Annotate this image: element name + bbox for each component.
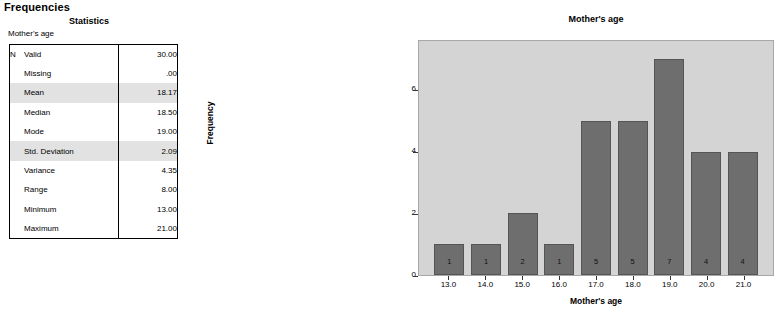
stat-n-cell: [10, 64, 25, 83]
x-tick-label: 16.0: [541, 280, 577, 289]
x-tick-mark: [670, 276, 671, 280]
histogram-bar[interactable]: 5: [618, 121, 648, 275]
histogram-bar[interactable]: 1: [434, 244, 464, 275]
plot-area: 112155744: [418, 40, 774, 276]
x-tick-mark: [744, 276, 745, 280]
page-title: Frequencies: [4, 1, 70, 13]
stat-label-cell: Std. Deviation: [24, 141, 119, 160]
y-tick-label: 0: [392, 270, 416, 279]
stat-value-cell: 8.00: [119, 180, 178, 199]
stat-label-cell: Mode: [24, 122, 119, 141]
bar-value-label: 1: [447, 257, 451, 266]
bar-value-label: 1: [557, 257, 561, 266]
bar-value-label: 1: [484, 257, 488, 266]
x-tick-mark: [522, 276, 523, 280]
x-tick-label: 13.0: [430, 280, 466, 289]
bar-slot: 7: [651, 41, 688, 275]
stat-label-cell: Missing: [24, 64, 119, 83]
stat-label-cell: Variance: [24, 161, 119, 180]
bar-series: 112155744: [419, 41, 773, 275]
histogram-bar[interactable]: 1: [471, 244, 501, 275]
x-tick-mark: [596, 276, 597, 280]
stat-label-cell: Median: [24, 103, 119, 122]
stat-n-cell: [10, 219, 25, 238]
stat-value-cell: 2.09: [119, 141, 178, 160]
y-tick-mark: [413, 276, 418, 277]
stat-label-cell: Maximum: [24, 219, 119, 238]
stat-value-cell: 18.50: [119, 103, 178, 122]
table-row: NValid30.00: [10, 45, 178, 64]
spss-output-pane: Frequencies Statistics Mother's age NVal…: [0, 0, 200, 317]
table-row: Mean18.17: [10, 83, 178, 102]
stat-n-cell: [10, 141, 25, 160]
x-tick-label: 18.0: [615, 280, 651, 289]
histogram-bar[interactable]: 1: [544, 244, 574, 275]
stat-n-cell: [10, 161, 25, 180]
x-tick-mark: [707, 276, 708, 280]
variable-caption: Mother's age: [8, 29, 54, 38]
x-tick-label: 17.0: [578, 280, 614, 289]
stat-value-cell: 19.00: [119, 122, 178, 141]
stat-n-cell: [10, 180, 25, 199]
bar-value-label: 2: [521, 257, 525, 266]
bar-value-label: 5: [594, 257, 598, 266]
table-row: Variance4.35: [10, 161, 178, 180]
table-row: Missing.00: [10, 64, 178, 83]
stat-value-cell: 21.00: [119, 219, 178, 238]
y-axis-label: Frequency: [205, 102, 215, 145]
histogram-bar[interactable]: 4: [728, 152, 758, 275]
x-tick-label: 15.0: [504, 280, 540, 289]
stat-value-cell: 13.00: [119, 200, 178, 219]
table-row: Maximum21.00: [10, 219, 178, 238]
histogram-chart: Mother's age Frequency 0246 112155744 13…: [196, 0, 595, 317]
y-tick-label: 2: [392, 208, 416, 217]
bar-slot: 2: [504, 41, 541, 275]
stat-n-cell: N: [10, 45, 25, 64]
statistics-table: NValid30.00Missing.00Mean18.17Median18.5…: [9, 44, 178, 239]
x-tick-label: 14.0: [467, 280, 503, 289]
x-tick-mark: [448, 276, 449, 280]
stat-label-cell: Minimum: [24, 200, 119, 219]
x-tick-mark: [559, 276, 560, 280]
bar-slot: 5: [614, 41, 651, 275]
bar-slot: 1: [431, 41, 468, 275]
stat-n-cell: [10, 122, 25, 141]
table-row: Minimum13.00: [10, 200, 178, 219]
stat-n-cell: [10, 103, 25, 122]
histogram-bar[interactable]: 2: [508, 213, 538, 275]
histogram-bar[interactable]: 5: [581, 121, 611, 275]
stat-label-cell: Mean: [24, 83, 119, 102]
bar-slot: 1: [541, 41, 578, 275]
x-tick-mark: [633, 276, 634, 280]
stat-label-cell: Range: [24, 180, 119, 199]
table-row: Range8.00: [10, 180, 178, 199]
stat-value-cell: 18.17: [119, 83, 178, 102]
table-row: Median18.50: [10, 103, 178, 122]
bar-value-label: 5: [631, 257, 635, 266]
x-axis-label: Mother's age: [418, 296, 774, 306]
histogram-bar[interactable]: 7: [654, 59, 684, 275]
bar-slot: 4: [688, 41, 725, 275]
bar-value-label: 4: [741, 257, 745, 266]
y-tick-label: 6: [392, 84, 416, 93]
statistics-table-title: Statistics: [0, 16, 178, 26]
x-tick-label: 19.0: [652, 280, 688, 289]
bar-slot: 1: [468, 41, 505, 275]
stat-value-cell: 4.35: [119, 161, 178, 180]
stat-label-cell: Valid: [24, 45, 119, 64]
stat-n-cell: [10, 83, 25, 102]
x-tick-label: 20.0: [689, 280, 725, 289]
table-row: Std. Deviation2.09: [10, 141, 178, 160]
bar-value-label: 7: [667, 257, 671, 266]
stat-value-cell: .00: [119, 64, 178, 83]
table-row: Mode19.00: [10, 122, 178, 141]
y-tick-label: 4: [392, 146, 416, 155]
stat-value-cell: 30.00: [119, 45, 178, 64]
bar-slot: 4: [724, 41, 761, 275]
x-tick-mark: [485, 276, 486, 280]
x-tick-label: 21.0: [726, 280, 762, 289]
statistics-table-body: NValid30.00Missing.00Mean18.17Median18.5…: [10, 45, 178, 239]
bar-slot: 5: [578, 41, 615, 275]
bar-value-label: 4: [704, 257, 708, 266]
histogram-bar[interactable]: 4: [691, 152, 721, 275]
